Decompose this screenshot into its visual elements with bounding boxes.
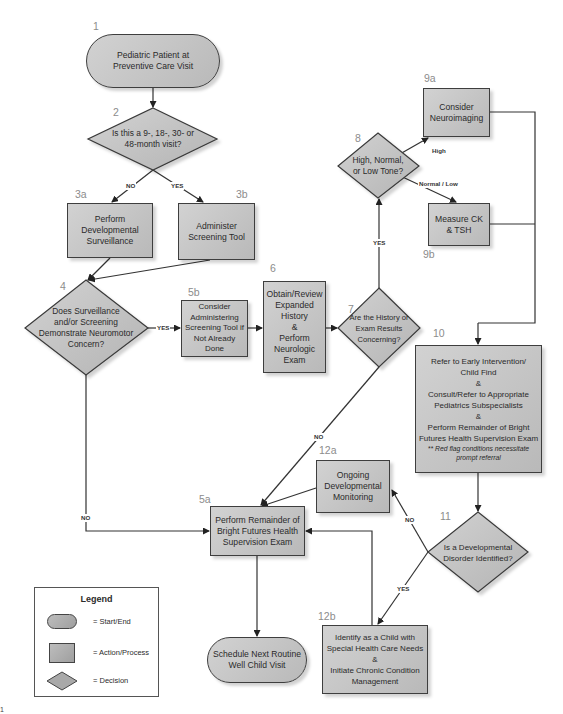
edge-label-11-yes: YES xyxy=(396,585,410,593)
page-corner-mark: 1 xyxy=(0,706,4,713)
legend-label-start-end: = Start/End xyxy=(93,617,131,626)
action-3a-developmental-surveillance[interactable]: Perform Developmental Surveillance xyxy=(67,203,153,258)
node-number-3b: 3b xyxy=(236,188,248,200)
node-number-2: 2 xyxy=(113,106,119,118)
node-label: Perform Developmental Surveillance xyxy=(81,214,138,247)
action-6-expanded-history[interactable]: Obtain/Review Expanded History & Perform… xyxy=(263,281,326,373)
node-label: Consider Neuroimaging xyxy=(430,102,484,124)
node-label: Measure CK & TSH xyxy=(435,214,483,236)
node-number-3a: 3a xyxy=(75,188,87,200)
decision-7-label[interactable]: Are the History or Exam Results Concerni… xyxy=(336,311,422,345)
node-number-9b: 9b xyxy=(423,248,435,260)
decision-8-label[interactable]: High, Normal, or Low Tone? xyxy=(340,153,416,179)
node-number-9a: 9a xyxy=(424,72,436,84)
decision-4-label[interactable]: Does Surveillance and/or Screening Demon… xyxy=(20,303,152,353)
node-label: Schedule Next Routine Well Child Visit xyxy=(213,649,301,671)
node-label: Ongoing Developmental Monitoring xyxy=(324,470,381,503)
edge-label-4-no: NO xyxy=(80,514,91,522)
start-node-pediatric-patient[interactable]: Pediatric Patient at Preventive Care Vis… xyxy=(86,34,220,88)
node-number-12a: 12a xyxy=(319,444,337,456)
node-label: Perform Remainder of Bright Futures Heal… xyxy=(215,515,300,548)
action-12b-special-health-care-needs[interactable]: Identify as a Child with Special Health … xyxy=(322,625,428,694)
node-label: Consider Administering Screening Tool if… xyxy=(185,302,244,355)
legend-action-icon xyxy=(49,643,75,663)
action-5b-consider-screening[interactable]: Consider Administering Screening Tool if… xyxy=(181,300,248,357)
node-label: Refer to Early Intervention/ Child Find … xyxy=(419,356,538,444)
node-number-1: 1 xyxy=(93,20,99,32)
node-number-12b: 12b xyxy=(318,610,336,622)
node-label: Administer Screening Tool xyxy=(188,221,245,243)
node-number-10: 10 xyxy=(433,327,445,339)
decision-11-label[interactable]: Is a Developmental Disorder Identified? xyxy=(430,540,526,566)
action-9b-measure-ck-tsh[interactable]: Measure CK & TSH xyxy=(428,203,490,246)
node-number-11: 11 xyxy=(440,510,451,522)
node-number-8: 8 xyxy=(355,132,361,144)
decision-2-label[interactable]: Is this a 9-, 18-, 30- or 48-month visit… xyxy=(93,124,213,154)
action-9a-neuroimaging[interactable]: Consider Neuroimaging xyxy=(423,88,490,137)
edge-label-8-high: High xyxy=(431,147,447,155)
legend-start-end-icon xyxy=(47,614,77,629)
node-number-5a: 5a xyxy=(199,493,211,505)
edge-label-2-no: NO xyxy=(125,182,136,190)
node-label: Identify as a Child with Special Health … xyxy=(327,632,424,687)
action-5a-perform-remainder[interactable]: Perform Remainder of Bright Futures Heal… xyxy=(210,506,305,556)
edge-label-11-no: NO xyxy=(404,516,415,524)
legend-title: Legend xyxy=(35,594,158,604)
legend-label-decision: = Decision xyxy=(93,676,128,685)
legend: Legend = Start/End = Action/Process = De… xyxy=(34,587,159,697)
edge-label-8-normal-low: Normal / Low xyxy=(418,180,459,188)
end-node-schedule-next-visit[interactable]: Schedule Next Routine Well Child Visit xyxy=(207,637,307,683)
red-flag-note: ** Red flag conditions necessitate promp… xyxy=(428,444,529,462)
action-3b-administer-screening[interactable]: Administer Screening Tool xyxy=(178,203,255,260)
node-number-5b: 5b xyxy=(188,286,200,298)
edge-label-2-yes: YES xyxy=(170,182,184,190)
node-label: Obtain/Review Expanded History & Perform… xyxy=(267,289,323,366)
node-number-4: 4 xyxy=(60,280,66,292)
node-label: Pediatric Patient at Preventive Care Vis… xyxy=(113,50,193,72)
legend-label-action: = Action/Process xyxy=(93,648,149,657)
action-12a-ongoing-monitoring[interactable]: Ongoing Developmental Monitoring xyxy=(316,460,390,513)
legend-decision-icon xyxy=(46,671,78,691)
edge-label-4-yes: YES xyxy=(156,324,170,332)
edge-label-7-no: NO xyxy=(313,433,324,441)
edge-label-7-yes: YES xyxy=(372,239,386,247)
node-number-6: 6 xyxy=(270,262,276,274)
action-10-refer-early-intervention[interactable]: Refer to Early Intervention/ Child Find … xyxy=(415,345,542,473)
